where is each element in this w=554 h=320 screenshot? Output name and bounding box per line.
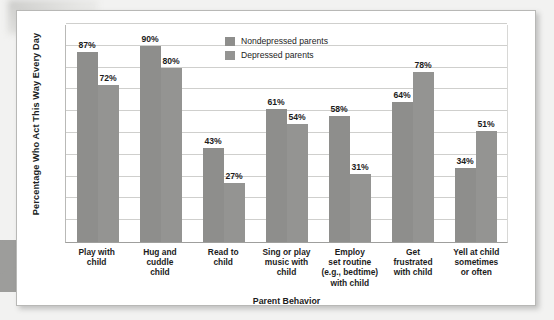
bar[interactable]: 90% [140, 24, 161, 242]
bar[interactable]: 58% [329, 24, 350, 242]
bar-fill [455, 168, 476, 242]
bar-group: 87%72% [66, 25, 129, 242]
bar-group: 64%78% [381, 25, 444, 242]
bar-fill [287, 124, 308, 242]
bar-fill [350, 174, 371, 242]
bar[interactable]: 34% [455, 24, 476, 242]
bar-fill [392, 102, 413, 242]
legend-item[interactable]: Nondepressed parents [225, 35, 328, 47]
x-axis-category-label: Play withchild [65, 247, 128, 288]
legend-swatch-icon [225, 51, 235, 60]
bar-value-label: 31% [351, 162, 368, 172]
bar[interactable]: 78% [413, 24, 434, 242]
bar-value-label: 72% [99, 73, 116, 83]
bar[interactable]: 80% [161, 24, 182, 242]
bar-value-label: 51% [477, 119, 494, 129]
bar-fill [266, 109, 287, 242]
bar-value-label: 90% [141, 34, 158, 44]
bar-value-label: 61% [267, 97, 284, 107]
bar[interactable]: 72% [98, 24, 119, 242]
bar-fill [77, 52, 98, 242]
bar-fill [140, 46, 161, 242]
x-axis-title: Parent Behavior [65, 296, 508, 306]
bar-group: 90%80% [129, 25, 192, 242]
chart-legend: Nondepressed parentsDepressed parents [225, 35, 328, 63]
bar-value-label: 58% [330, 104, 347, 114]
x-axis-category-label: Hug andcuddlechild [128, 247, 191, 288]
bar-fill [329, 116, 350, 242]
bar-fill [224, 183, 245, 242]
bar[interactable]: 87% [77, 24, 98, 242]
bar-fill [98, 85, 119, 242]
x-axis-category-label: Yell at childsometimesor often [445, 247, 508, 288]
bar-value-label: 27% [225, 171, 242, 181]
bar-fill [476, 131, 497, 242]
legend-swatch-icon [225, 37, 235, 46]
bar-chart: Percentage Who Act This Way Every Day 87… [17, 11, 537, 307]
x-axis-category-label: Getfrustratedwith child [381, 247, 444, 288]
bar-fill [203, 148, 224, 242]
bar-value-label: 54% [288, 112, 305, 122]
bar[interactable]: 51% [476, 24, 497, 242]
x-axis-category-label: Read tochild [192, 247, 255, 288]
x-axis-category-label: Employset routine(e.g., bedtime)with chi… [318, 247, 381, 288]
bar-fill [413, 72, 434, 242]
bar-value-label: 87% [78, 40, 95, 50]
legend-label: Depressed parents [241, 50, 314, 60]
bar-value-label: 78% [414, 60, 431, 70]
x-axis-category-label: Sing or playmusic withchild [255, 247, 318, 288]
bar-group: 34%51% [444, 25, 507, 242]
bar[interactable]: 43% [203, 24, 224, 242]
bar-value-label: 64% [393, 90, 410, 100]
legend-label: Nondepressed parents [241, 36, 328, 46]
bar[interactable]: 64% [392, 24, 413, 242]
bar[interactable]: 31% [350, 24, 371, 242]
x-axis-category-labels: Play withchildHug andcuddlechildRead toc… [65, 247, 508, 288]
bar-value-label: 80% [162, 56, 179, 66]
bar-value-label: 43% [204, 136, 221, 146]
legend-item[interactable]: Depressed parents [225, 49, 328, 61]
bar-fill [161, 68, 182, 242]
figure-frame: Percentage Who Act This Way Every Day 87… [16, 10, 536, 306]
y-axis-title: Percentage Who Act This Way Every Day [31, 24, 45, 224]
bar-value-label: 34% [456, 156, 473, 166]
